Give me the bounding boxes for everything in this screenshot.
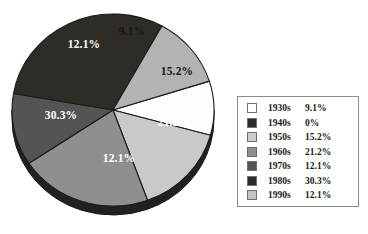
legend-swatch-icon-1970s xyxy=(247,161,257,171)
pie-svg: 9.1%15.2%21.2%12.1%30.3%12.1% xyxy=(8,2,230,232)
legend-swatch-icon-1940s xyxy=(247,118,257,128)
legend-value-label: 12.1% xyxy=(305,161,331,171)
slice-label-1990s: 12.1% xyxy=(68,38,101,50)
legend-value-label: 21.2% xyxy=(305,147,331,157)
legend-value-label: 30.3% xyxy=(305,176,331,186)
legend-key-label: 1940s xyxy=(268,118,301,128)
legend-row-1970s[interactable]: 1970s12.1% xyxy=(238,159,358,174)
legend-swatch-icon-1950s xyxy=(247,132,257,142)
legend: 1930s9.1%1940s0%1950s15.2%1960s21.2%1970… xyxy=(237,96,359,207)
slice-label-1960s: 21.2% xyxy=(158,116,191,128)
legend-row-1940s[interactable]: 1940s0% xyxy=(238,116,358,131)
legend-key-label: 1980s xyxy=(268,176,301,186)
pie-graphic: 9.1%15.2%21.2%12.1%30.3%12.1% xyxy=(8,2,230,232)
legend-value-label: 0% xyxy=(305,118,319,128)
legend-value-label: 15.2% xyxy=(305,132,331,142)
legend-row-1980s[interactable]: 1980s30.3% xyxy=(238,174,358,189)
legend-swatch-icon-1990s xyxy=(247,190,257,200)
legend-swatch-icon-1930s xyxy=(247,103,257,113)
legend-row-1990s[interactable]: 1990s12.1% xyxy=(238,188,358,203)
slice-label-1980s: 30.3% xyxy=(45,109,78,121)
legend-row-1960s[interactable]: 1960s21.2% xyxy=(238,145,358,160)
pie-chart: 9.1%15.2%21.2%12.1%30.3%12.1% 1930s9.1%1… xyxy=(0,0,368,234)
legend-value-label: 9.1% xyxy=(305,103,326,113)
slice-label-1930s: 9.1% xyxy=(119,25,146,37)
legend-key-label: 1970s xyxy=(268,161,301,171)
legend-swatch-icon-1980s xyxy=(247,176,257,186)
slice-label-1950s: 15.2% xyxy=(161,65,194,77)
legend-swatch-icon-1960s xyxy=(247,147,257,157)
legend-row-1950s[interactable]: 1950s15.2% xyxy=(238,130,358,145)
legend-row-1930s[interactable]: 1930s9.1% xyxy=(238,101,358,116)
pie-slices xyxy=(12,14,214,206)
legend-key-label: 1930s xyxy=(268,103,301,113)
slice-label-1970s: 12.1% xyxy=(103,152,136,164)
legend-key-label: 1960s xyxy=(268,147,301,157)
legend-value-label: 12.1% xyxy=(305,190,331,200)
legend-key-label: 1950s xyxy=(268,132,301,142)
legend-key-label: 1990s xyxy=(268,190,301,200)
